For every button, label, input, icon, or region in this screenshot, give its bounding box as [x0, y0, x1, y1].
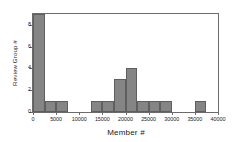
y-tick-label: 0 — [28, 108, 31, 115]
histogram-bar — [137, 101, 149, 112]
histogram-bar — [149, 101, 161, 112]
x-tick-mark — [56, 112, 57, 115]
plot-area: 0246805000100001500020000250003000035000… — [32, 13, 219, 113]
x-tick-mark — [126, 112, 127, 115]
y-axis-title: Review Group # — [9, 8, 20, 118]
x-tick-mark — [172, 112, 173, 115]
histogram-bar — [45, 101, 57, 112]
x-tick-mark — [149, 112, 150, 115]
x-tick-mark — [33, 112, 34, 115]
y-tick-label: 8 — [28, 21, 31, 28]
histogram-bar — [195, 101, 207, 112]
histogram-bar — [102, 101, 114, 112]
histogram-bar — [33, 14, 45, 112]
x-tick-label: 5000 — [50, 116, 62, 123]
y-tick-label: 4 — [28, 64, 31, 71]
x-tick-label: 40000 — [211, 116, 226, 123]
histogram-bar — [160, 101, 172, 112]
histogram-bar — [56, 101, 68, 112]
histogram-figure: Review Group # 0246805000100001500020000… — [0, 0, 239, 142]
bars-container — [33, 14, 218, 112]
x-tick-label: 15000 — [95, 116, 110, 123]
x-axis-title: Member # — [32, 128, 220, 137]
y-tick-label: 6 — [28, 43, 31, 50]
y-tick-label: 2 — [28, 86, 31, 93]
histogram-bar — [126, 68, 138, 112]
x-tick-label: 25000 — [141, 116, 156, 123]
x-tick-label: 20000 — [118, 116, 133, 123]
x-tick-mark — [218, 112, 219, 115]
x-tick-label: 35000 — [187, 116, 202, 123]
x-tick-label: 30000 — [164, 116, 179, 123]
histogram-bar — [114, 79, 126, 112]
x-tick-mark — [79, 112, 80, 115]
x-tick-label: 0 — [32, 116, 35, 123]
x-tick-mark — [102, 112, 103, 115]
x-tick-label: 10000 — [72, 116, 87, 123]
x-tick-mark — [195, 112, 196, 115]
histogram-bar — [91, 101, 103, 112]
